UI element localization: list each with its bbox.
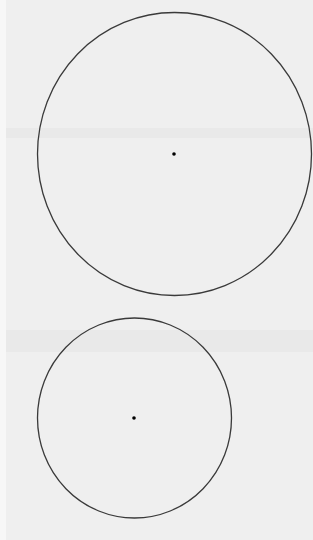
large-circle-group [38,13,312,296]
small-circle-center-dot [132,416,136,420]
small-circle-group [38,318,232,518]
circles-diagram [0,0,313,540]
scanned-page [0,0,313,540]
large-circle-center-dot [172,152,176,156]
